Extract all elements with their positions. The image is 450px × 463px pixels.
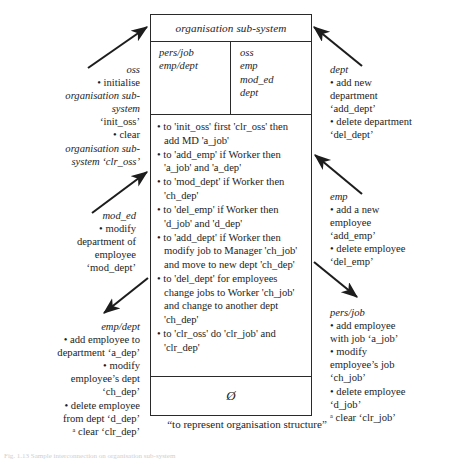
annotation-emp-dept-line: ᵃ clear ‘clr_dep’ (0, 425, 140, 438)
annotation-mod-ed-line: • modify (0, 222, 136, 235)
annotation-emp-line: employee (330, 216, 450, 229)
annotation-pers-job-line: employee’s job (330, 358, 450, 371)
ports-right-column: oss emp mod_ed dept (231, 42, 311, 114)
box-footer-empty-set: Ø (151, 377, 311, 415)
rule-item: to 'add_dept' if Worker then modify job … (157, 231, 306, 272)
arrow-emp-dept (104, 278, 148, 313)
arrow-oss (88, 27, 147, 68)
rule-item: to 'clr_oss' do 'clr_job' and 'clr_dep' (157, 327, 306, 354)
annotation-mod-ed-head: mod_ed (0, 209, 136, 222)
annotation-emp-line: ‘del_emp’ (330, 255, 450, 268)
annotation-mod-ed-line: department of (0, 235, 136, 248)
annotation-mod-ed-line: employee (0, 248, 136, 261)
annotation-emp-dept-line: department ‘a_dep’ (0, 346, 140, 359)
annotation-emp-dept-line: • add employee to (0, 333, 140, 346)
port-left-0: pers/job (159, 46, 230, 59)
annotation-mod-ed: mod_ed • modify department of employee ‘… (0, 209, 136, 274)
port-left-1: emp/dept (159, 59, 230, 72)
rule-item: to 'init_oss' first 'clr_oss' then add M… (157, 120, 306, 147)
arrow-emp (315, 155, 362, 194)
annotation-dept-head: dept (330, 63, 450, 76)
annotation-oss-line: • initialise (0, 76, 140, 89)
annotation-mod-ed-line: ‘mod_dept’ (0, 261, 136, 274)
arrow-dept (314, 27, 362, 66)
annotation-pers-job-line: with job ‘a_job’ (330, 332, 450, 345)
annotation-emp-line: ‘add_emp’ (330, 229, 450, 242)
annotation-emp-dept-head: emp/dept (0, 320, 140, 333)
port-right-2: mod_ed (240, 73, 311, 86)
rule-item: to 'del_dept' for employees change jobs … (157, 272, 306, 326)
port-right-0: oss (240, 46, 311, 59)
annotation-oss-line: organisation sub- (0, 142, 140, 155)
annotation-emp-head: emp (330, 190, 450, 203)
annotation-oss-line: system ‘clr_oss’ (0, 155, 140, 168)
organisation-sub-system-box: organisation sub-system pers/job emp/dep… (150, 14, 312, 416)
box-title: organisation sub-system (151, 15, 311, 42)
annotation-dept-line: ‘del_dept’ (330, 128, 450, 141)
annotation-pers-job-head: pers/job (330, 306, 450, 319)
annotation-dept-line: ‘add_dept’ (330, 102, 450, 115)
box-rules-section: to 'init_oss' first 'clr_oss' then add M… (151, 115, 311, 377)
port-right-3: dept (240, 86, 311, 99)
annotation-oss-line: • clear (0, 128, 140, 141)
annotation-oss-line: organisation sub- (0, 89, 140, 102)
annotation-dept-line: • add new (330, 76, 450, 89)
annotation-pers-job-line: • add employee (330, 319, 450, 332)
figure-note: Fig. 1.13 Sample interconnection on orga… (4, 452, 324, 460)
rule-item: to 'mod_dept' if Worker then 'ch_dep' (157, 175, 306, 202)
annotation-oss: oss • initialise organisation sub- syste… (0, 63, 140, 168)
rule-item: to 'add_emp' if Worker then 'a_job' and … (157, 148, 306, 175)
annotation-oss-line: ‘init_oss’ (0, 115, 140, 128)
annotation-emp-line: • add a new (330, 203, 450, 216)
ports-left-column: pers/job emp/dept (151, 42, 231, 114)
annotation-dept-line: department (330, 89, 450, 102)
annotation-pers-job-line: ‘ch_job’ (330, 371, 450, 384)
annotation-pers-job-line: • delete employee (330, 385, 450, 398)
port-right-1: emp (240, 59, 311, 72)
annotation-emp-dept: emp/dept • add employee to department ‘a… (0, 320, 140, 438)
annotation-emp: emp • add a new employee ‘add_emp’ • del… (330, 190, 450, 269)
annotation-pers-job-line: ᵃ clear ‘clr_job’ (330, 411, 450, 424)
annotation-emp-dept-line: employee’s dept (0, 372, 140, 385)
annotation-pers-job-line: • modify (330, 345, 450, 358)
annotation-pers-job: pers/job • add employee with job ‘a_job’… (330, 306, 450, 424)
annotation-emp-dept-line: from dept ‘d_dep’ (0, 412, 140, 425)
annotation-pers-job-line: ‘d_job’ (330, 398, 450, 411)
arrow-mod-ed (92, 172, 147, 213)
annotation-dept: dept • add new department ‘add_dept’ • d… (330, 63, 450, 142)
annotation-dept-line: • delete department (330, 115, 450, 128)
annotation-emp-dept-line: • delete employee (0, 399, 140, 412)
box-caption: “to represent organisation structure” (152, 418, 342, 430)
rule-item: to 'del_emp' if Worker then 'd_job' and … (157, 203, 306, 230)
annotation-emp-dept-line: • modify (0, 359, 140, 372)
annotation-emp-line: • delete employee (330, 242, 450, 255)
box-ports-section: pers/job emp/dept oss emp mod_ed dept (151, 42, 311, 115)
annotation-oss-line: system (0, 102, 140, 115)
annotation-oss-head: oss (0, 63, 140, 76)
annotation-emp-dept-line: ‘ch_dep’ (0, 385, 140, 398)
